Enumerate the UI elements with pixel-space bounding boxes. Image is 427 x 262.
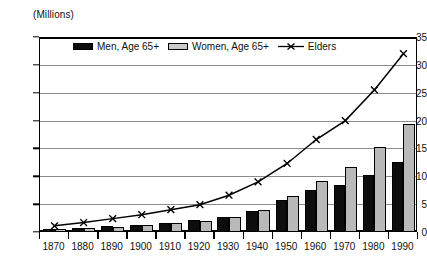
y-axis-unit-label: (Millions) (33, 9, 74, 20)
legend-label-men: Men, Age 65+ (97, 41, 159, 52)
plot-area (39, 37, 417, 232)
legend-label-women: Women, Age 65+ (192, 41, 269, 52)
x-axis-tick-mark (39, 232, 40, 239)
bar-women-1880 (84, 228, 96, 232)
x-axis-tick-mark (359, 232, 360, 239)
x-axis-tick-mark (126, 232, 127, 239)
legend-item-men: Men, Age 65+ (73, 41, 159, 52)
x-axis-tick-label: 1960 (304, 241, 326, 252)
bar-men-1970 (334, 185, 346, 232)
bar-women-1990 (403, 124, 415, 232)
x-axis-tick-mark (213, 232, 214, 239)
bar-women-1960 (316, 181, 328, 232)
x-axis-tick-label: 1980 (362, 241, 384, 252)
bar-men-1930 (217, 217, 229, 232)
bar-women-1950 (287, 196, 299, 232)
x-axis-tick-mark (330, 232, 331, 239)
bar-men-1890 (101, 226, 113, 232)
bar-women-1930 (229, 217, 241, 232)
bars-layer (40, 37, 416, 232)
chart-container: (Millions) 05101520253035 18701880189019… (0, 0, 427, 262)
x-axis-tick-label: 1970 (333, 241, 355, 252)
bar-women-1910 (171, 223, 183, 232)
bar-men-1910 (159, 223, 171, 232)
bar-women-1970 (345, 167, 357, 232)
x-axis-tick-mark (68, 232, 69, 239)
bar-women-1890 (113, 227, 125, 232)
bar-men-1990 (392, 162, 404, 232)
x-axis-tick-label: 1920 (188, 241, 210, 252)
x-axis-tick-mark (417, 232, 418, 239)
bar-men-1960 (305, 190, 317, 232)
bar-men-1900 (130, 225, 142, 232)
x-axis-tick-label: 1930 (217, 241, 239, 252)
x-axis-tick-mark (272, 232, 273, 239)
bar-women-1870 (55, 229, 67, 232)
x-axis-tick-label: 1900 (130, 241, 152, 252)
legend-item-women: Women, Age 65+ (168, 41, 269, 52)
x-axis-tick-label: 1910 (159, 241, 181, 252)
x-axis-tick-mark (301, 232, 302, 239)
chart-legend: Men, Age 65+ Women, Age 65+ Elders (73, 41, 336, 52)
x-axis-tick-mark (155, 232, 156, 239)
x-axis-tick-label: 1940 (246, 241, 268, 252)
x-axis-tick-label: 1890 (101, 241, 123, 252)
bar-men-1880 (72, 228, 84, 232)
bar-men-1940 (246, 211, 258, 232)
legend-label-elders: Elders (308, 41, 336, 52)
legend-swatch-men-icon (73, 43, 93, 50)
legend-item-elders: Elders (278, 41, 336, 52)
x-axis-tick-label: 1870 (42, 241, 64, 252)
bar-women-1980 (374, 147, 386, 232)
x-axis-tick-mark (184, 232, 185, 239)
bar-men-1870 (43, 229, 55, 232)
bar-men-1920 (188, 220, 200, 232)
x-axis-tick-label: 1990 (391, 241, 413, 252)
x-axis-tick-mark (97, 232, 98, 239)
legend-swatch-women-icon (168, 43, 188, 50)
bar-men-1950 (276, 200, 288, 232)
bar-women-1900 (142, 225, 154, 232)
legend-swatch-elders-icon (278, 42, 304, 51)
bar-women-1920 (200, 221, 212, 232)
bar-men-1980 (363, 175, 375, 232)
x-axis-tick-mark (388, 232, 389, 239)
bar-women-1940 (258, 210, 270, 232)
x-axis-tick-label: 1950 (275, 241, 297, 252)
x-axis-tick-label: 1880 (71, 241, 93, 252)
x-axis-tick-mark (243, 232, 244, 239)
